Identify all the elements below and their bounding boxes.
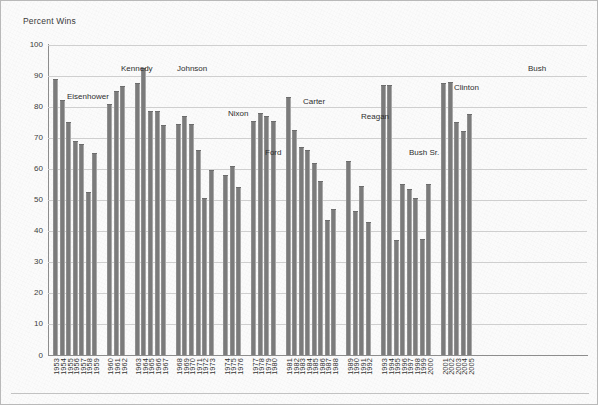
annotation-ford: Ford [265,148,281,157]
bar-1962 [120,86,125,355]
annotation-johnson: Johnson [177,64,207,73]
bar-1995 [394,240,399,355]
bar-1978 [258,113,263,355]
bar-1971 [196,150,201,355]
bar-1964 [141,68,146,355]
bar-1996 [400,184,405,355]
bar-2005 [467,114,472,355]
x-tick-label-1973: 1973 [208,358,217,375]
bar-1954 [60,100,65,355]
annotation-bush: Bush [528,64,546,73]
annotation-reagan: Reagan [361,112,389,121]
bar-1999 [420,239,425,355]
bar-1975 [230,166,235,355]
y-axis-title: Percent Wins [23,16,76,26]
bar-1997 [407,189,412,355]
y-tick-label-100: 100 [17,40,43,49]
bar-1998 [413,198,418,355]
bar-1976 [236,187,241,355]
y-tick-label-40: 40 [17,226,43,235]
bar-1965 [148,111,153,355]
bar-2000 [426,184,431,355]
bar-2002 [448,82,453,355]
bar-1991 [359,186,364,355]
bar-1977 [251,121,256,355]
chart-figure: Percent Wins 1009080706050403020100 1953… [0,0,598,405]
plot-area [48,44,587,355]
bar-1993 [381,85,386,355]
annotation-carter: Carter [303,97,325,106]
bar-1987 [325,220,330,355]
x-tick-label-2005: 2005 [467,358,476,375]
y-tick-label-70: 70 [17,133,43,142]
x-tick-label-1988: 1988 [331,358,340,375]
annotation-nixon: Nixon [228,109,248,118]
bar-1973 [209,170,214,355]
bar-1960 [107,104,112,356]
bar-1967 [161,125,166,355]
bar-1994 [387,85,392,355]
bar-1988 [331,209,336,355]
y-tick-label-50: 50 [17,195,43,204]
x-tick-label-1992: 1992 [365,358,374,375]
bar-2003 [454,122,459,355]
bar-1983 [299,147,304,355]
y-tick-label-10: 10 [17,319,43,328]
x-tick-label-1959: 1959 [92,358,101,375]
bar-1990 [353,211,358,355]
x-tick-label-2000: 2000 [426,358,435,375]
figure-footer-rule [11,393,589,394]
x-axis-line [48,355,588,356]
bar-1972 [202,198,207,355]
x-tick-label-1967: 1967 [161,358,170,375]
y-tick-label-20: 20 [17,288,43,297]
bar-1956 [73,141,78,355]
bar-2004 [461,131,466,355]
annotation-bush-sr: Bush Sr. [409,148,439,157]
bar-1984 [305,150,310,355]
y-tick-label-0: 0 [17,351,43,360]
bar-1992 [366,222,371,356]
x-tick-label-1962: 1962 [120,358,129,375]
bar-1955 [66,122,71,355]
bar-1963 [135,83,140,355]
bar-1985 [312,163,317,356]
annotation-kennedy: Kennedy [121,64,153,73]
bar-1969 [182,116,187,355]
bar-1957 [79,144,84,355]
bar-1974 [223,175,228,355]
x-tick-label-1980: 1980 [270,358,279,375]
y-tick-label-60: 60 [17,164,43,173]
bar-1968 [176,124,181,355]
y-tick-label-90: 90 [17,71,43,80]
bar-1961 [114,91,119,355]
bar-1959 [92,153,97,355]
bar-1970 [189,124,194,355]
y-tick-label-80: 80 [17,102,43,111]
y-tick-label-30: 30 [17,257,43,266]
annotation-eisenhower: Eisenhower [67,92,109,101]
annotation-clinton: Clinton [454,83,479,92]
bar-2001 [441,83,446,355]
x-tick-label-1976: 1976 [236,358,245,375]
bar-1953 [53,79,58,355]
bar-1982 [292,130,297,355]
bar-1986 [318,181,323,355]
bar-1958 [86,192,91,355]
bar-1989 [346,161,351,355]
bar-1966 [155,111,160,355]
bar-1981 [286,97,291,355]
